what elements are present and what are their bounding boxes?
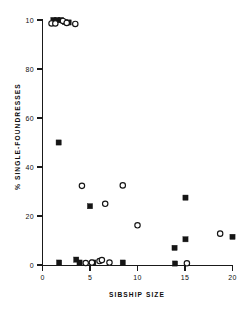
x-axis: 0 5 10 15 20 SIBSHIP SIZE xyxy=(40,266,236,299)
plot-canvas: 10 80 60 40 20 0 % SINGLE-FOUNDRESSES 0 … xyxy=(0,0,249,312)
data-point-open-circle xyxy=(99,257,104,262)
data-point-filled-square xyxy=(230,234,235,239)
x-tick-label-0: 0 xyxy=(40,274,44,281)
data-point-open-circle xyxy=(120,183,125,188)
data-point-open-circle xyxy=(135,223,140,228)
data-point-filled-square xyxy=(120,260,125,265)
x-tick-label-5: 5 xyxy=(88,274,92,281)
data-point-open-circle xyxy=(107,260,112,265)
data-point-open-circle xyxy=(79,183,84,188)
x-tick-label-20: 20 xyxy=(228,274,237,281)
data-point-filled-square xyxy=(87,204,92,209)
data-point-filled-square xyxy=(183,237,188,242)
data-point-open-circle xyxy=(184,261,189,266)
data-point-filled-square xyxy=(56,140,61,145)
data-points-layer xyxy=(49,17,235,266)
y-tick-label-0: 0 xyxy=(30,262,34,269)
data-point-open-circle xyxy=(103,201,108,206)
data-point-filled-square xyxy=(172,245,177,250)
x-tick-label-15: 15 xyxy=(181,274,190,281)
data-point-open-circle xyxy=(89,260,94,265)
data-point-filled-square xyxy=(77,260,82,265)
y-tick-label-100: 10 xyxy=(26,17,35,24)
y-tick-label-60: 60 xyxy=(26,115,35,122)
series-filled-square xyxy=(51,17,235,266)
x-tick-label-10: 10 xyxy=(133,274,142,281)
x-axis-title: SIBSHIP SIZE xyxy=(109,291,165,298)
y-tick-label-80: 80 xyxy=(26,66,35,73)
data-point-open-circle xyxy=(83,260,88,265)
y-tick-label-40: 40 xyxy=(26,164,35,171)
data-point-open-circle xyxy=(53,21,58,26)
scatter-plot-figure: 10 80 60 40 20 0 % SINGLE-FOUNDRESSES 0 … xyxy=(0,0,249,312)
y-axis-title: % SINGLE-FOUNDRESSES xyxy=(14,83,21,190)
data-point-filled-square xyxy=(172,261,177,266)
y-axis: 10 80 60 40 20 0 % SINGLE-FOUNDRESSES xyxy=(14,17,43,269)
data-point-open-circle xyxy=(73,21,78,26)
data-point-open-circle xyxy=(64,20,69,25)
data-point-open-circle xyxy=(217,231,222,236)
data-point-filled-square xyxy=(57,260,62,265)
y-tick-label-20: 20 xyxy=(26,213,35,220)
data-point-filled-square xyxy=(183,195,188,200)
series-open-circle xyxy=(49,18,223,266)
